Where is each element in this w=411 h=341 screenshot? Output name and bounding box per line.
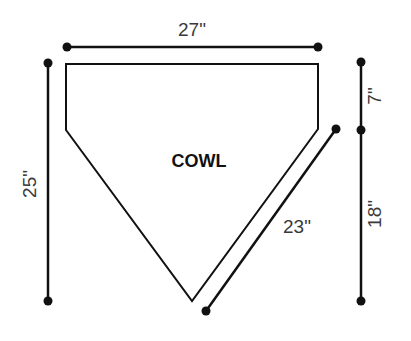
cowl-diagram: 27" 25" 7" 18" 23" COWL: [0, 0, 411, 341]
dimension-endpoint-dot: [357, 58, 366, 67]
dimension-endpoint-dot: [63, 43, 72, 52]
dimension-endpoint-dot: [314, 43, 323, 52]
dimension-midpoint-dot: [357, 126, 366, 135]
cowl-outline: [66, 64, 318, 301]
dimension-endpoint-dot: [202, 307, 211, 316]
left-height-label: 25": [19, 170, 40, 198]
right-height-dimension: 7" 18": [357, 58, 386, 306]
diagonal-edge-label: 23": [283, 216, 311, 237]
top-width-label: 27": [178, 19, 206, 40]
right-lower-height-label: 18": [364, 200, 385, 228]
dimension-endpoint-dot: [44, 297, 53, 306]
left-height-dimension: 25": [19, 59, 53, 306]
dimension-endpoint-dot: [44, 59, 53, 68]
right-upper-height-label: 7": [364, 87, 385, 104]
dimension-endpoint-dot: [332, 125, 341, 134]
part-label: COWL: [172, 151, 227, 171]
top-width-dimension: 27": [63, 19, 323, 52]
dimension-endpoint-dot: [357, 297, 366, 306]
